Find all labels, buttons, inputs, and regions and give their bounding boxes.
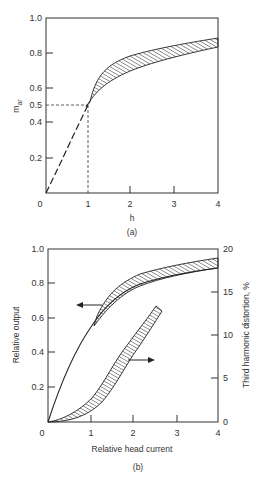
chart-a: 1.0 0.8 0.6 0.5 0.4 0.2 0 1 2 3 4 h mar … [11, 13, 221, 237]
chart-a-xtick-4: 4 [215, 199, 220, 209]
chart-b-ytick-0.4: 0.4 [31, 347, 44, 357]
chart-a-ytick-0.5: 0.5 [29, 100, 42, 110]
chart-a-xtick-1: 1 [85, 199, 90, 209]
chart-a-xtick-0: 0 [37, 199, 42, 209]
chart-b-ytick-0.6: 0.6 [31, 313, 44, 323]
chart-a-hatched-band [86, 38, 218, 107]
chart-b-frame [48, 249, 218, 422]
chart-b-y2tick-0: 0 [223, 417, 228, 427]
figure: 1.0 0.8 0.6 0.5 0.4 0.2 0 1 2 3 4 h mar … [0, 0, 259, 481]
chart-a-ytick-0.4: 0.4 [29, 117, 42, 127]
chart-b-y2tick-10: 10 [223, 330, 233, 340]
chart-b-x-ticks [91, 415, 177, 422]
chart-b-caption: (b) [133, 462, 144, 472]
chart-b-y-ticks [48, 283, 55, 387]
chart-b-xlabel: Relative head current [92, 444, 173, 454]
chart-a-xlabel: h [130, 213, 135, 223]
chart-b-ylabel: Relative output [11, 306, 21, 363]
chart-a-ytick-0.2: 0.2 [29, 153, 42, 163]
chart-b-distortion-hatched-band [48, 306, 162, 422]
chart-b-ytick-0.8: 0.8 [31, 278, 44, 288]
chart-a-xtick-2: 2 [127, 199, 132, 209]
chart-a-xtick-3: 3 [171, 199, 176, 209]
chart-b-left-arrow-icon [76, 302, 102, 308]
chart-b-xtick-4: 4 [215, 428, 220, 438]
chart-b-right-arrow-icon [128, 357, 155, 363]
chart-b-y2tick-20: 20 [223, 244, 233, 254]
chart-b-xtick-1: 1 [88, 428, 93, 438]
chart-b-xtick-3: 3 [174, 428, 179, 438]
chart-b-y2-ticks [211, 292, 218, 378]
chart-a-x-ticks [130, 186, 174, 193]
chart-a-ytick-0.8: 0.8 [29, 48, 42, 58]
chart-a-ytick-0.6: 0.6 [29, 83, 42, 93]
chart-a-initial-curve [46, 105, 88, 193]
chart-a-ytick-1.0: 1.0 [29, 13, 42, 23]
chart-b-ytick-1.0: 1.0 [31, 244, 44, 254]
chart-b-y2label: Third harmonic distortion, % [241, 282, 251, 388]
chart-b-y2tick-5: 5 [223, 373, 228, 383]
chart-b-ytick-0.2: 0.2 [31, 382, 44, 392]
chart-b-xtick-0: 0 [39, 428, 44, 438]
chart-a-caption: (a) [127, 227, 138, 237]
svg-text:mar: mar [11, 99, 23, 113]
chart-a-y-ticks [46, 53, 53, 158]
chart-b: 1.0 0.8 0.6 0.4 0.2 20 15 10 5 0 0 1 2 3… [11, 244, 251, 472]
chart-b-xtick-2: 2 [130, 428, 135, 438]
chart-a-ylabel: mar [11, 99, 23, 113]
chart-b-y2tick-15: 15 [223, 287, 233, 297]
